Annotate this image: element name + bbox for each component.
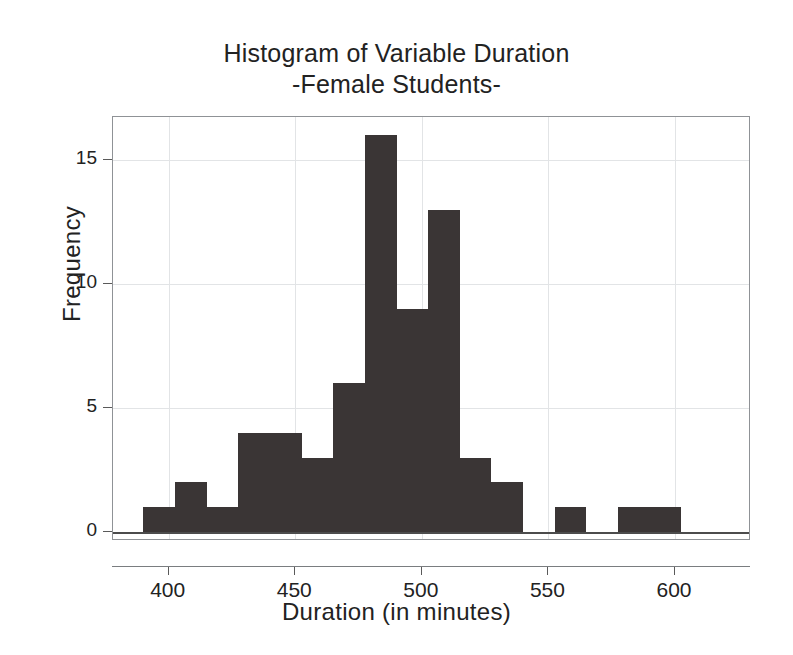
y-axis-label: Frequency bbox=[58, 134, 86, 394]
histogram-bar bbox=[238, 433, 270, 532]
histogram-bar bbox=[175, 482, 207, 532]
x-tick-mark bbox=[674, 566, 675, 575]
baseline bbox=[113, 532, 749, 534]
histogram-bar bbox=[555, 507, 587, 532]
histogram-bar bbox=[270, 433, 302, 532]
plot-area bbox=[112, 116, 750, 540]
histogram-bar bbox=[302, 458, 334, 532]
y-tick-label: 5 bbox=[37, 395, 97, 417]
chart-subtitle: -Female Students- bbox=[0, 69, 793, 100]
x-tick-mark bbox=[168, 566, 169, 575]
y-tick-mark bbox=[103, 283, 112, 284]
histogram-bar bbox=[491, 482, 523, 532]
x-axis-label: Duration (in minutes) bbox=[0, 598, 793, 626]
y-tick-mark bbox=[103, 407, 112, 408]
histogram-bar bbox=[428, 210, 460, 532]
histogram-figure: Histogram of Variable Duration -Female S… bbox=[0, 0, 793, 655]
histogram-bar bbox=[618, 507, 650, 532]
x-axis-line bbox=[112, 566, 750, 567]
y-tick-mark bbox=[103, 159, 112, 160]
histogram-bar bbox=[365, 135, 397, 532]
y-tick-mark bbox=[103, 531, 112, 532]
histogram-bar bbox=[397, 309, 429, 532]
gridline-vertical bbox=[675, 117, 676, 539]
histogram-bar bbox=[207, 507, 239, 532]
histogram-bar bbox=[333, 383, 365, 532]
gridline-vertical bbox=[169, 117, 170, 539]
y-tick-label: 0 bbox=[37, 519, 97, 541]
x-tick-mark bbox=[421, 566, 422, 575]
gridline-horizontal bbox=[113, 160, 749, 161]
histogram-bar bbox=[460, 458, 492, 532]
histogram-bar bbox=[143, 507, 175, 532]
chart-title: Histogram of Variable Duration bbox=[0, 38, 793, 69]
x-tick-mark bbox=[294, 566, 295, 575]
histogram-bar bbox=[650, 507, 682, 532]
gridline-vertical bbox=[548, 117, 549, 539]
chart-title-block: Histogram of Variable Duration -Female S… bbox=[0, 38, 793, 100]
x-tick-mark bbox=[547, 566, 548, 575]
plot-inner bbox=[113, 117, 749, 539]
